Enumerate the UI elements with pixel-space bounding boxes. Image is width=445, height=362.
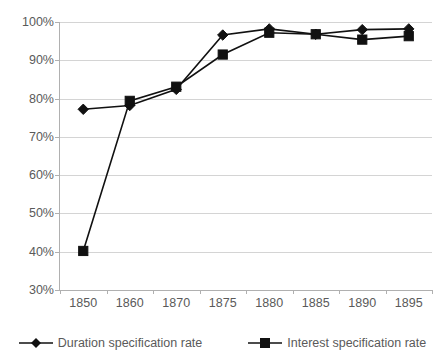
y-axis-tick-label: 80% — [2, 93, 54, 105]
legend-item-duration: Duration specification rate — [19, 336, 203, 350]
x-axis-tick — [246, 290, 247, 294]
y-axis-tick — [55, 290, 59, 291]
x-axis-tick — [339, 290, 340, 294]
x-axis-tick-label: 1895 — [379, 296, 439, 310]
y-axis-tick — [55, 213, 59, 214]
x-axis-tick — [60, 290, 61, 294]
y-axis-tick-label: 70% — [2, 131, 54, 143]
line-chart: 30%40%50%60%70%80%90%100% 18501860187018… — [0, 0, 445, 362]
y-axis-tick-label: 40% — [2, 246, 54, 258]
series-layer — [60, 22, 432, 290]
data-point-square — [311, 30, 320, 39]
data-point-diamond — [78, 104, 88, 114]
x-axis-labels: 18501860187018751880188518901895 — [60, 296, 432, 316]
chart-legend: Duration specification rate Interest spe… — [0, 330, 445, 356]
y-axis-tick — [55, 137, 59, 138]
y-axis-tick-label: 30% — [2, 284, 54, 296]
y-axis-tick — [55, 22, 59, 23]
data-point-square — [125, 96, 134, 105]
data-point-square — [172, 82, 181, 91]
legend-label-duration: Duration specification rate — [58, 336, 203, 350]
x-axis-tick — [107, 290, 108, 294]
data-point-square — [265, 28, 274, 37]
data-point-square — [218, 50, 227, 59]
x-axis-tick — [200, 290, 201, 294]
y-axis-line — [59, 22, 60, 291]
data-point-square — [404, 32, 413, 41]
plot-area — [60, 22, 432, 290]
x-axis-tick — [386, 290, 387, 294]
x-axis-tick — [432, 290, 433, 294]
legend-item-interest: Interest specification rate — [248, 336, 426, 350]
data-point-square — [358, 35, 367, 44]
y-axis-tick — [55, 252, 59, 253]
y-axis-labels: 30%40%50%60%70%80%90%100% — [0, 0, 54, 362]
diamond-marker-icon — [19, 336, 53, 350]
y-axis-tick-label: 90% — [2, 54, 54, 66]
y-axis-tick-label: 60% — [2, 169, 54, 181]
data-point-square — [79, 246, 88, 255]
x-axis-tick — [293, 290, 294, 294]
square-marker-icon — [248, 336, 282, 350]
x-axis-tick — [153, 290, 154, 294]
series-line-square — [83, 33, 409, 251]
y-axis-tick — [55, 60, 59, 61]
y-axis-tick-label: 100% — [2, 16, 54, 28]
y-axis-tick — [55, 99, 59, 100]
legend-label-interest: Interest specification rate — [287, 336, 426, 350]
data-point-diamond — [357, 24, 367, 34]
y-axis-tick — [55, 175, 59, 176]
y-axis-tick-label: 50% — [2, 207, 54, 219]
